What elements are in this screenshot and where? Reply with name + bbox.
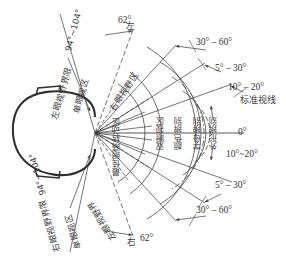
label-zero: 0° [238, 128, 247, 138]
label-left-marker: 左 [126, 22, 135, 31]
label-bottom-62: 62° [140, 234, 153, 244]
label-right-10-20-lower: 10°~20° [226, 150, 258, 160]
label-color-discrimination: 颜色辨别 [175, 100, 183, 150]
label-bottom-5-30: 5° – 30° [215, 181, 246, 191]
label-standard-line-of-sight: 标准视线 [240, 96, 276, 105]
label-top-30-60: 30° – 60° [196, 38, 232, 48]
tick-top-a [189, 40, 196, 52]
label-letter-discrimination: 字母辨别 [194, 100, 202, 150]
label-binocular-zone: 双眼视区 [157, 100, 165, 150]
label-top-5-30: 5° – 30° [215, 64, 246, 74]
arrow-62-top [105, 31, 132, 35]
tick-bottom-a [189, 214, 196, 226]
arrow-30-60-bottom [176, 216, 206, 220]
label-shape-discrimination: 外形辨别 [210, 100, 218, 150]
diagram-canvas: 94°~104° 左眼视野界限 单眼视区 右眼视野区 62° 94°~104° … [0, 0, 286, 256]
label-right-10-20-upper: 10° – 20° [228, 83, 264, 93]
arrow-5-30-bottom [205, 194, 221, 202]
tick-top-b [198, 58, 206, 70]
arrow-right-limit-pointer [70, 155, 90, 208]
label-bottom-30-60: 30° – 60° [196, 206, 232, 216]
label-best-eye-rotation-zone: 最佳眼睛转动区 [113, 92, 121, 176]
label-right-marker: 右 [127, 238, 136, 247]
